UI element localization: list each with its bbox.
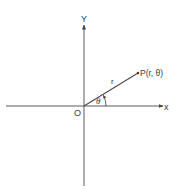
x-axis-label: x [164,102,169,112]
radius-label: r [111,77,114,86]
y-axis-label: Y [81,14,87,24]
polar-coordinates-diagram: Y x O r θ P(r, θ) [0,0,180,196]
point-p-marker [137,72,139,74]
point-label: P(r, θ) [140,68,163,78]
angle-arc [104,96,107,107]
origin-label: O [74,108,81,118]
angle-label: θ [96,96,101,106]
